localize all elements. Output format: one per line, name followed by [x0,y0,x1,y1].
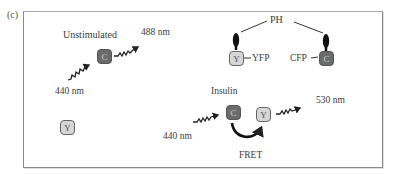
yfp-box-membrane: Y [229,51,244,66]
ph-line-right [294,22,323,33]
emission-488-label: 488 nm [141,27,170,37]
cfp-box-unstimulated: C [97,49,112,64]
fret-arrow [232,123,261,137]
ph-domain-left-icon [233,33,239,47]
emission-wave-488 [114,47,138,56]
cfp-label: CFP [290,53,307,63]
unstimulated-title: Unstimulated [63,29,117,40]
cfp-box-insulin: C [226,105,241,120]
excitation-wave-unstimulated [68,65,89,80]
insulin-title: Insulin [211,86,237,96]
ph-line-left [241,21,267,32]
excitation-wave-insulin [193,115,218,122]
emission-530-label: 530 nm [316,95,345,105]
fret-label: FRET [239,150,262,160]
yfp-label: YFP [252,53,269,63]
ph-domain-right-icon [323,34,329,48]
cfp-box-membrane: C [319,51,334,66]
yfp-box-insulin: Y [256,107,271,122]
excitation-440-insulin-label: 440 nm [163,131,192,141]
excitation-440-label: 440 nm [55,86,84,96]
emission-wave-530 [276,108,300,114]
yfp-box-cytosolic: Y [60,120,75,135]
ph-label: PH [270,14,283,25]
